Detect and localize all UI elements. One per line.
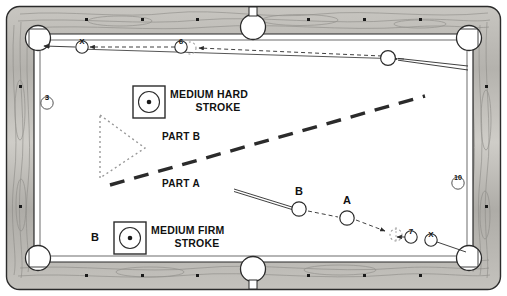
medium-hard-line2: STROKE [170,102,266,114]
pocket-bottom-side-mouth [249,280,257,289]
medium-firm-line1: MEDIUM FIRM [151,225,271,237]
stroke-box-medium-hard [133,86,165,118]
top-cue-tip-dot [395,58,397,60]
rail-ball-10-label: 10 [417,174,499,182]
pool-table-diagram: 3 10 X 6 7 X B A MEDIUM HARD STROKE B ME… [0,0,507,296]
part-a-label: PART A [162,178,200,189]
pocket-top-side [241,15,266,40]
pocket-top-side-mouth [249,7,257,16]
medium-firm-line2: STROKE [151,238,243,250]
top-marker-x-label: X [42,38,122,47]
pocket-bottom-side [241,257,266,282]
top-cue-ball [381,51,396,66]
top-marker-6-label: 6 [141,38,221,47]
part-b-label: PART B [162,131,200,142]
rail-ball-3-label: 3 [6,94,88,103]
stroke-box-medium-firm [114,222,146,254]
bottom-marker-x-label: X [391,231,471,240]
bottom-ball-a-label: A [307,194,387,206]
bottom-ball-a [340,211,354,225]
medium-hard-line1: MEDIUM HARD [170,89,290,101]
bottom-ball-b [292,202,306,216]
medium-firm-prefix-label: B [84,231,106,243]
